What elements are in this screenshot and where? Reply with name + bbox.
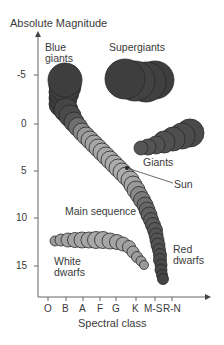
x-tick-label: K	[132, 303, 139, 314]
y-tick-marks	[34, 75, 38, 266]
supergiants-label: Supergiants	[109, 42, 165, 53]
red-dwarfs-label: Red dwarfs	[173, 244, 204, 266]
y-tick-label: 15	[16, 260, 27, 271]
y-tick-label: 5	[21, 165, 27, 176]
y-tick-label: 0	[21, 118, 27, 129]
blue-giants-label: Blue giants	[45, 42, 73, 64]
red-dwarfs-label-line2: dwarfs	[173, 255, 204, 266]
x-tick-label: B	[62, 303, 69, 314]
x-axis-label: Spectral class	[78, 318, 146, 329]
giants-label: Giants	[143, 157, 173, 168]
sun-label: Sun	[174, 179, 193, 190]
x-tick-label: O	[44, 303, 52, 314]
x-tick-label: A	[79, 303, 86, 314]
white-dwarfs-label-line2: dwarfs	[54, 267, 85, 278]
y-axis-label: Absolute Magnitude	[10, 18, 107, 29]
x-tick-label: R-N	[163, 303, 181, 314]
supergiants-cluster	[105, 59, 174, 102]
x-tick-label: G	[112, 303, 120, 314]
white-dwarfs-label: White dwarfs	[54, 256, 85, 278]
x-tick-label: F	[97, 303, 103, 314]
giants-cluster	[134, 119, 204, 155]
x-tick-label: M-S	[144, 303, 162, 314]
y-tick-label: -5	[17, 69, 26, 80]
blue-giants-label-line2: giants	[45, 53, 73, 64]
y-tick-label: 10	[16, 212, 27, 223]
x-tick-marks	[48, 297, 172, 301]
main-sequence-label: Main sequence	[65, 206, 136, 217]
